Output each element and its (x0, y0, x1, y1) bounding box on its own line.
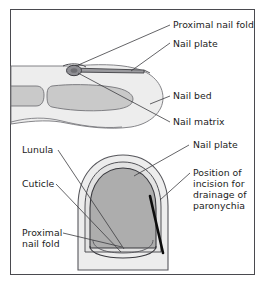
label-lunula: Lunula (22, 144, 53, 155)
label-incision-line-2: incision for (193, 178, 245, 189)
label-nail-bed: Nail bed (173, 90, 212, 101)
label-proximal-nail-fold-bottom-line-1: Proximal (22, 227, 62, 238)
label-incision-line-1: Position of (193, 167, 242, 178)
distal-phalanx-bone (47, 85, 133, 111)
nail-plate-dorsal (90, 168, 156, 248)
dorsal-view-panel (56, 145, 190, 270)
label-nail-plate-bottom: Nail plate (193, 139, 238, 150)
label-proximal-nail-fold-bottom-line-2: nail fold (22, 238, 60, 249)
label-nail-plate-top: Nail plate (173, 38, 218, 49)
label-cuticle: Cuticle (22, 178, 54, 189)
label-incision-line-3: drainage of (193, 189, 247, 200)
label-incision-line-4: paronychia (193, 200, 245, 211)
nail-anatomy-figure: Proximal nail fold Nail plate Nail bed N… (0, 0, 266, 286)
middle-phalanx-bone (11, 86, 44, 106)
label-nail-matrix: Nail matrix (173, 116, 225, 127)
leader-line-proximal-nail-fold-top (76, 25, 170, 66)
sagittal-view-panel (11, 25, 170, 128)
nail-matrix-core (71, 68, 78, 73)
label-proximal-nail-fold-top: Proximal nail fold (173, 19, 254, 30)
leader-line-nail-plate-top (131, 43, 170, 71)
